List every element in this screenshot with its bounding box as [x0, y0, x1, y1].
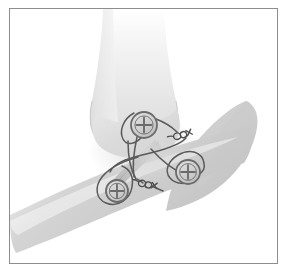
- illustration-canvas: [10, 9, 277, 263]
- figure-frame: [9, 8, 278, 264]
- anchor-inferior-left[interactable]: [106, 180, 128, 202]
- figure-root: Suture anchor repair of joint with three…: [0, 0, 288, 273]
- anchor-inferior-right[interactable]: [176, 160, 200, 184]
- anchor-superior[interactable]: [131, 112, 157, 138]
